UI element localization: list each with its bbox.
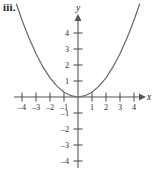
y-tick-label: 2 [65,61,69,70]
y-tick-label: 3 [65,45,69,54]
y-tick-label: –1 [60,109,69,118]
x-axis-arrow-icon [139,94,146,101]
y-tick-label: –3 [60,141,69,150]
y-tick-label: –2 [60,125,69,134]
x-tick-label: –3 [31,103,40,112]
x-tick-label: 3 [118,103,122,112]
y-tick-label: –4 [60,157,69,166]
y-tick-label: 4 [65,29,69,38]
x-tick-label: 2 [104,103,108,112]
parabola-chart: –4 –3 –2 –1 1 2 3 4 4 3 2 1 –1 –2 –3 –4 … [0,0,157,179]
x-axis-label: x [146,92,152,102]
y-axis-label: y [75,3,81,13]
x-tick-label: 4 [132,103,136,112]
x-tick-label: 1 [90,103,94,112]
x-tick-labels: –4 –3 –2 –1 1 2 3 4 [17,103,136,112]
x-tick-label: –4 [17,103,26,112]
y-tick-label: 1 [65,77,69,86]
y-axis-arrow-icon [75,14,82,21]
figure-panel: iii. [0,0,157,179]
x-tick-label: –2 [45,103,54,112]
